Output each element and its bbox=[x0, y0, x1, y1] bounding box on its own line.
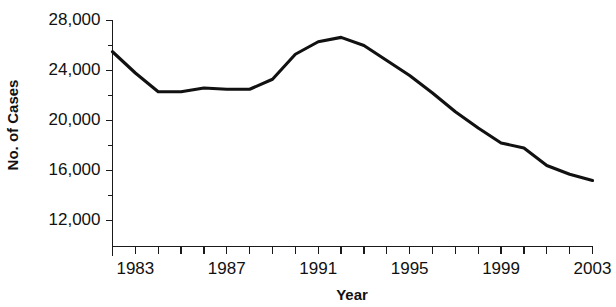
y-tick-label: 12,000 bbox=[49, 210, 101, 229]
y-axis-tick-labels: 12,00016,00020,00024,00028,000 bbox=[49, 10, 101, 229]
x-tick-label: 1995 bbox=[391, 259, 429, 278]
x-tick-label: 1999 bbox=[482, 259, 520, 278]
x-axis-ticks bbox=[113, 247, 593, 256]
chart-container: 12,00016,00020,00024,00028,000 198319871… bbox=[0, 0, 616, 307]
y-axis-title: No. of Cases bbox=[4, 80, 21, 171]
x-tick-label: 1983 bbox=[116, 259, 154, 278]
x-tick-label: 1987 bbox=[208, 259, 246, 278]
x-axis-tick-labels: 198319871991199519992003 bbox=[116, 259, 611, 278]
y-tick-label: 20,000 bbox=[49, 110, 101, 129]
data-series-line bbox=[113, 37, 593, 180]
y-tick-label: 24,000 bbox=[49, 60, 101, 79]
x-tick-label: 2003 bbox=[574, 259, 612, 278]
line-chart: 12,00016,00020,00024,00028,000 198319871… bbox=[0, 0, 616, 307]
y-axis-major-ticks bbox=[106, 21, 113, 221]
y-tick-label: 16,000 bbox=[49, 160, 101, 179]
y-tick-label: 28,000 bbox=[49, 10, 101, 29]
x-axis-title: Year bbox=[336, 286, 368, 303]
x-tick-label: 1991 bbox=[299, 259, 337, 278]
